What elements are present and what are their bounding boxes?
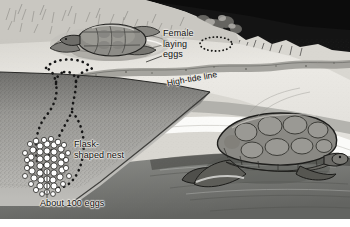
label-flask-shaped-nest: Flask- shaped nest xyxy=(74,139,124,160)
label-female-laying-eggs: Female laying eggs xyxy=(163,28,194,60)
label-about-100-eggs: About 100 eggs xyxy=(40,198,104,209)
illustration-figure: Female laying eggs High-tide line Flask-… xyxy=(0,0,350,227)
